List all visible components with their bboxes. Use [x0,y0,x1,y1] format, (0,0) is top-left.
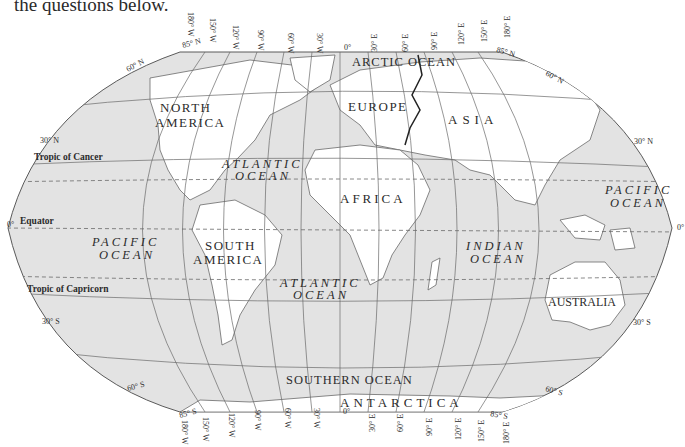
lon-bot-60w: 60° W [283,408,292,429]
label-indian-2: OCEAN [470,252,526,266]
lon-bot-180w: 180° W [180,420,189,445]
lon-bot-150e: 150° E [477,420,486,442]
lon-top-90w: 90° W [256,30,265,51]
label-southern-ocean: SOUTHERN OCEAN [286,373,413,387]
lon-top-120w: 120° W [231,25,240,50]
longitude-labels-bottom: 180° W 150° W 120° W 90° W 60° W 30° W 0… [180,407,511,445]
lon-top-150w: 150° W [208,18,217,43]
label-south-america-2: AMERICA [193,252,263,267]
label-africa: AFRICA [340,191,406,206]
label-asia: ASIA [448,112,498,127]
lon-bot-90e: 90° E [425,418,434,436]
lon-bot-30e: 30° E [368,414,377,432]
lat-30n-right: 30° N [634,137,653,146]
label-north-america-2: AMERICA [155,115,225,130]
lon-top-150e: 150° E [480,20,489,42]
lat-30n-left: 30° N [40,136,59,145]
label-tropic-of-capricorn: Tropic of Capricorn [27,284,109,294]
lon-top-180w: 180° W [186,12,195,37]
label-south-america-1: SOUTH [205,238,256,253]
label-antarctica: ANTARCTICA [340,395,463,410]
lon-bot-120w: 120° W [227,413,236,438]
label-atlantic-north-2: OCEAN [235,169,291,183]
label-indian-1: INDIAN [465,239,526,253]
label-north-america-1: NORTH [160,100,212,115]
world-map: NORTH AMERICA SOUTH AMERICA EUROPE ASIA … [0,0,685,447]
lon-bot-0: 0° [343,407,350,416]
label-pacific-west-2: OCEAN [99,248,155,262]
lat-30s-right: 30° S [633,318,651,327]
lon-top-30e: 30° E [370,34,379,52]
lon-top-120e: 120° E [457,23,466,45]
label-australia: AUSTRALIA [548,295,616,309]
lon-bot-60e: 60° E [396,414,405,432]
lon-bot-120e: 120° E [454,418,463,440]
lon-bot-90w: 90° W [253,410,262,431]
lat-eq-right: 0° [677,223,684,232]
lon-top-0: 0° [344,43,351,52]
label-tropic-of-cancer: Tropic of Cancer [34,152,104,162]
lon-bot-180e: 180° E [502,422,511,444]
label-europe: EUROPE [348,99,408,114]
label-atlantic-south-2: OCEAN [293,288,349,302]
label-equator-deg: 0° [7,220,14,229]
longitude-labels-top: 180° W 150° W 120° W 90° W 60° W 30° W 0… [186,12,512,54]
lat-30s-left: 30° S [42,317,60,326]
label-pacific-west-1: PACIFIC [91,235,159,249]
lon-top-60e: 60° E [401,34,410,52]
lon-top-90e: 90° E [430,32,439,50]
lat-85n-left: 85° N [181,36,202,50]
label-equator: Equator [20,216,55,226]
lon-top-60w: 60° W [286,33,295,54]
label-arctic-ocean: ARCTIC OCEAN [352,55,456,69]
label-pacific-east-2: OCEAN [610,196,666,210]
label-pacific-east-1: PACIFIC [604,183,672,197]
lon-top-180e: 180° E [503,16,512,38]
lon-bot-150w: 150° W [201,417,210,442]
lon-bot-30w: 30° W [312,408,321,429]
lat-85s-right: 85° S [490,409,509,421]
lon-top-30w: 30° W [315,33,324,54]
